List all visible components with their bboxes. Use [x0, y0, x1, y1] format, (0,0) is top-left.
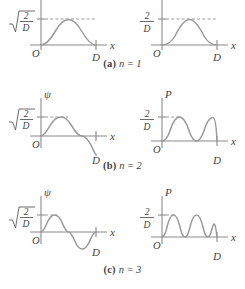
prob-plot-n3: 2 D P O D x	[121, 182, 243, 270]
caption-text: n = 2	[119, 160, 142, 171]
amplitude-denominator: D	[143, 24, 151, 34]
amplitude-numerator: 2	[145, 109, 150, 119]
x-axis-label: x	[230, 39, 236, 51]
prob-plot-n2: 2 D P O D x	[121, 84, 243, 170]
origin-label: O	[153, 144, 161, 155]
y-axis-label: ψ	[44, 186, 51, 198]
caption-text: n = 1	[119, 58, 142, 69]
amplitude-denominator: D	[143, 122, 151, 132]
amplitude-numerator: 2	[24, 109, 29, 119]
psi-curve-n1	[41, 20, 96, 46]
y-axis-label: P	[164, 186, 172, 198]
prob-curve-n3	[162, 215, 217, 237]
prob-curve-n2	[162, 117, 217, 141]
caption-text: n = 3	[119, 264, 142, 275]
origin-label: O	[32, 235, 40, 246]
caption-letter: (a)	[103, 58, 116, 69]
x-axis-label: x	[109, 226, 115, 238]
psi-panel-n2: 2 D ψ O D x	[0, 84, 122, 164]
psi-plot-n3: 2 D ψ O D x	[0, 182, 122, 270]
psi-plot-n2: 2 D ψ O D x	[0, 84, 122, 170]
caption-letter: (c)	[104, 264, 116, 275]
prob-panel-n2: 2 D P O D x	[121, 84, 243, 164]
caption-n1: (a) n = 1	[0, 58, 245, 69]
x-axis-label: x	[109, 130, 115, 142]
y-axis-amplitude-label: 2 D	[140, 109, 154, 132]
amplitude-denominator: D	[22, 219, 30, 229]
amplitude-numerator: 2	[24, 11, 29, 21]
caption-n2: (b) n = 2	[0, 160, 245, 171]
x-axis-label: x	[109, 39, 115, 51]
psi-panel-n3: 2 D ψ O D x	[0, 182, 122, 262]
x-axis-label: x	[230, 135, 236, 147]
y-axis-amplitude-label: 2 D	[140, 11, 154, 34]
box-end-label: D	[91, 246, 100, 258]
figure-row-n2: 2 D ψ O D x 2 D	[0, 84, 245, 170]
y-axis-amplitude-label: 2 D	[140, 207, 154, 230]
amplitude-numerator: 2	[24, 207, 29, 217]
amplitude-denominator: D	[22, 121, 30, 131]
caption-letter: (b)	[103, 160, 116, 171]
y-axis-label: P	[164, 88, 172, 100]
amplitude-numerator: 2	[145, 207, 150, 217]
box-end-label: D	[212, 250, 221, 262]
figure-row-n3: 2 D ψ O D x 2 D	[0, 182, 245, 268]
amplitude-numerator: 2	[145, 11, 150, 21]
x-axis-label: x	[230, 231, 236, 243]
amplitude-denominator: D	[143, 220, 151, 230]
prob-curve-n1	[162, 20, 217, 46]
caption-n3: (c) n = 3	[0, 264, 245, 275]
amplitude-denominator: D	[22, 23, 30, 33]
particle-in-a-box-figure: 2 D O D x 2 D	[0, 0, 245, 289]
y-axis-label: ψ	[44, 88, 51, 100]
y-axis-amplitude-label: 2 D	[9, 207, 35, 229]
prob-panel-n3: 2 D P O D x	[121, 182, 243, 262]
origin-label: O	[153, 240, 161, 251]
origin-label: O	[32, 139, 40, 150]
y-axis-amplitude-label: 2 D	[9, 109, 35, 131]
y-axis-amplitude-label: 2 D	[9, 11, 35, 33]
